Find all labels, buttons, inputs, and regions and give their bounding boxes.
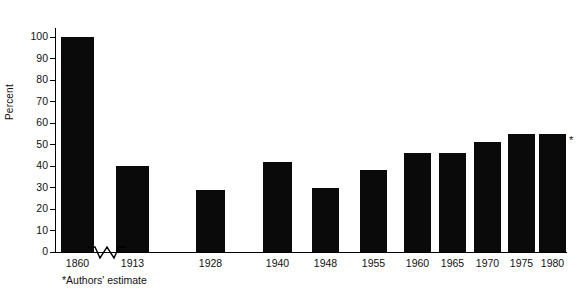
y-axis-tick [50, 230, 56, 231]
y-axis-tick [50, 252, 56, 253]
y-axis-tick-label: 80 [0, 74, 48, 84]
bar-1928 [196, 190, 225, 252]
x-axis-line [55, 252, 567, 253]
y-axis-tick-label-text: 60 [4, 117, 48, 127]
y-axis-tick [50, 37, 56, 38]
y-axis-tick [50, 123, 56, 124]
y-axis-tick-label-text: 0 [4, 246, 48, 256]
bar-1913 [116, 166, 149, 252]
bar-1955 [360, 170, 387, 252]
y-axis-tick-label-text: 100 [4, 31, 48, 41]
y-axis-tick [50, 166, 56, 167]
y-axis-tick-label-text: 40 [4, 160, 48, 170]
y-axis-tick-label: 70 [0, 96, 48, 106]
y-axis-tick-label: 20 [0, 203, 48, 213]
y-axis-tick-label: 30 [0, 182, 48, 192]
bar-1940 [263, 162, 292, 252]
y-axis-tick [50, 209, 56, 210]
estimate-asterisk-marker: * [569, 136, 573, 144]
y-axis-tick-label: 40 [0, 160, 48, 170]
y-axis-tick-label-text: 30 [4, 182, 48, 192]
y-axis-line [55, 28, 56, 253]
x-axis-tick-label-1940: 1940 [253, 257, 303, 269]
y-axis-tick [50, 58, 56, 59]
y-axis-tick-label-text: 50 [4, 139, 48, 149]
y-axis-tick-label-text: 80 [4, 74, 48, 84]
y-axis-tick-label: 90 [0, 53, 48, 63]
bar-1965 [439, 153, 466, 252]
x-axis-tick-label-1980: 1980 [528, 257, 578, 269]
y-axis-tick-label-text: 20 [4, 203, 48, 213]
bar-1980 [539, 134, 566, 252]
y-axis-tick-label-text: 90 [4, 53, 48, 63]
y-axis-tick-label: 10 [0, 225, 48, 235]
bar-1975 [508, 134, 535, 252]
y-axis-tick-label: 50 [0, 139, 48, 149]
bar-1948 [312, 188, 339, 253]
bar-1960 [404, 153, 431, 252]
y-axis-tick-label: 0 [0, 246, 48, 256]
x-axis-tick-label-1955: 1955 [349, 257, 399, 269]
y-axis-tick-label: 100 [0, 31, 48, 41]
axis-break-zigzag-icon [88, 244, 126, 261]
y-axis-tick-label: 60 [0, 117, 48, 127]
y-axis-tick-label-text: 10 [4, 225, 48, 235]
y-axis-tick [50, 187, 56, 188]
y-axis-tick [50, 144, 56, 145]
x-axis-tick-label-1948: 1948 [301, 257, 351, 269]
bar-1860 [61, 37, 94, 252]
bar-1970 [474, 142, 501, 252]
x-axis-tick-label-1928: 1928 [186, 257, 236, 269]
bar-chart: Percent 0102030405060708090100 * 1860191… [0, 0, 584, 300]
footnote: *Authors' estimate [62, 274, 147, 286]
y-axis-tick [50, 80, 56, 81]
y-axis-tick-label-text: 70 [4, 96, 48, 106]
y-axis-tick [50, 101, 56, 102]
